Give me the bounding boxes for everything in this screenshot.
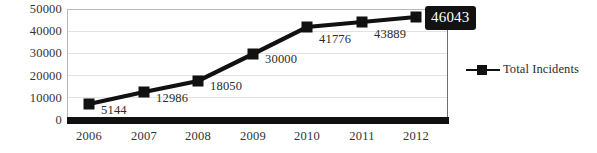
x-tick-label: 2007 [117,129,171,143]
x-axis-line [67,117,449,124]
legend-label[interactable]: Total Incidents [503,62,579,76]
data-point-marker [139,87,150,98]
data-label: 30000 [265,52,297,66]
chart-legend: Total Incidents [466,62,579,76]
x-tick-label: 2012 [389,129,443,143]
data-label: 18050 [210,79,242,93]
data-point-marker [84,99,95,110]
x-tick-label: 2006 [62,129,116,143]
line-chart: 50000 40000 30000 20000 10000 0 5144 129… [0,0,597,153]
data-point-marker [193,76,204,87]
data-point-marker [302,22,313,33]
legend-square-icon [477,65,487,75]
x-tick-label: 2009 [226,129,280,143]
x-tick-label: 2008 [171,129,225,143]
x-tick-label: 2010 [280,129,334,143]
data-label-highlighted[interactable]: 46043 [425,6,476,30]
data-point-marker [357,17,368,28]
data-label: 43889 [374,27,406,41]
x-tick-label: 2011 [335,129,389,143]
data-point-marker [248,49,259,60]
series-line [89,17,416,104]
data-point-marker [411,12,422,23]
data-label: 5144 [101,103,127,117]
legend-marker-icon [466,63,500,76]
data-label: 12986 [156,91,188,105]
data-label: 41776 [319,32,351,46]
